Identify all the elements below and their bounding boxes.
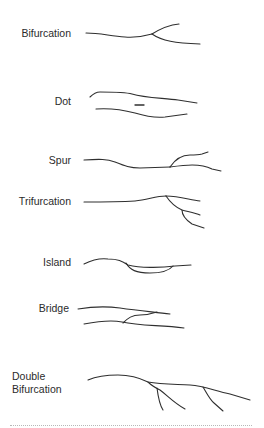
bridge-sketch xyxy=(78,307,184,328)
ridge-sketches xyxy=(0,0,264,428)
trifurcation-sketch xyxy=(84,196,204,228)
island-sketch xyxy=(84,259,191,273)
dot-sketch xyxy=(90,92,197,117)
divider xyxy=(10,425,252,426)
spur-sketch xyxy=(84,152,221,171)
double-bifurcation-sketch xyxy=(88,375,250,411)
bifurcation-sketch xyxy=(86,24,200,44)
